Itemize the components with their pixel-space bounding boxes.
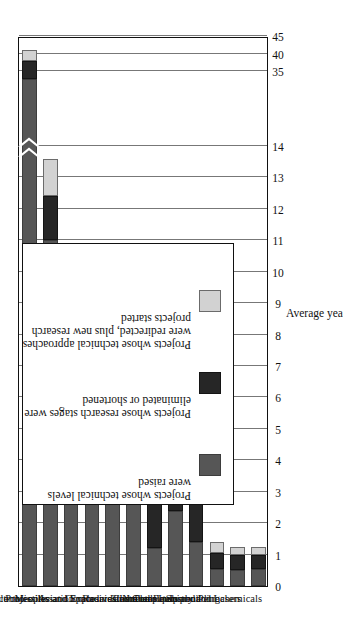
x-tick-label: 40 bbox=[272, 49, 284, 61]
gridline bbox=[19, 53, 267, 54]
x-tick-label: 2 bbox=[275, 518, 281, 530]
bar-segment bbox=[189, 542, 204, 586]
x-tick-label: 35 bbox=[272, 66, 284, 78]
bar-segment bbox=[230, 547, 245, 555]
x-tick-label: 12 bbox=[272, 204, 284, 216]
legend: Projects whose technical levelswere rais… bbox=[22, 243, 234, 505]
x-tick-label: 5 bbox=[275, 424, 281, 436]
rotated-chart-canvas: 01234567891011121314354045 ElectronicsAr… bbox=[0, 0, 343, 625]
x-axis-title: Average yearly percent of all research p… bbox=[286, 307, 343, 319]
bar-segment bbox=[230, 555, 245, 571]
legend-label-2: Projects whose technical approacheswere … bbox=[23, 312, 191, 351]
bar-segment bbox=[43, 196, 58, 240]
gridline bbox=[19, 70, 267, 71]
chart-figure: 01234567891011121314354045 ElectronicsAr… bbox=[0, 0, 343, 625]
legend-swatch-redirected bbox=[199, 290, 221, 312]
bar-segment bbox=[147, 548, 162, 586]
legend-swatch-technical-levels bbox=[199, 454, 221, 476]
x-tick-label: 13 bbox=[272, 172, 284, 184]
x-tick-label: 10 bbox=[272, 267, 284, 279]
gridline bbox=[19, 145, 267, 146]
bar-segment bbox=[251, 569, 266, 586]
x-tick-label: 8 bbox=[275, 330, 281, 342]
x-tick-label: 4 bbox=[275, 455, 281, 467]
bar-segment bbox=[168, 511, 183, 586]
x-tick-label: 45 bbox=[272, 31, 284, 43]
category-label: Petroleum and Petrochemicals bbox=[134, 593, 262, 604]
bar-segment bbox=[210, 569, 225, 586]
bar-segment bbox=[251, 555, 266, 569]
bar-segment bbox=[251, 547, 266, 555]
legend-swatch-research-stages bbox=[199, 372, 221, 394]
x-tick-label: 7 bbox=[275, 361, 281, 373]
x-tick-label: 3 bbox=[275, 487, 281, 499]
x-tick-label: 14 bbox=[272, 141, 284, 153]
x-tick-label: 9 bbox=[275, 298, 281, 310]
gridline bbox=[19, 35, 267, 36]
x-tick-label: 1 bbox=[275, 550, 281, 562]
axis-break-icon bbox=[22, 134, 37, 160]
x-tick-label: 11 bbox=[272, 235, 283, 247]
bar-segment bbox=[230, 570, 245, 586]
legend-label-1: Projects whose research stages wereelimi… bbox=[24, 394, 191, 420]
bar-segment bbox=[210, 553, 225, 569]
x-tick-label: 0 bbox=[275, 581, 281, 593]
bar-segment bbox=[22, 50, 37, 61]
legend-label-0: Projects whose technical levelswere rais… bbox=[48, 476, 191, 502]
bar-segment bbox=[43, 159, 58, 197]
bar-segment bbox=[22, 61, 37, 79]
x-tick-label: 6 bbox=[275, 392, 281, 404]
bar-segment bbox=[210, 542, 225, 553]
